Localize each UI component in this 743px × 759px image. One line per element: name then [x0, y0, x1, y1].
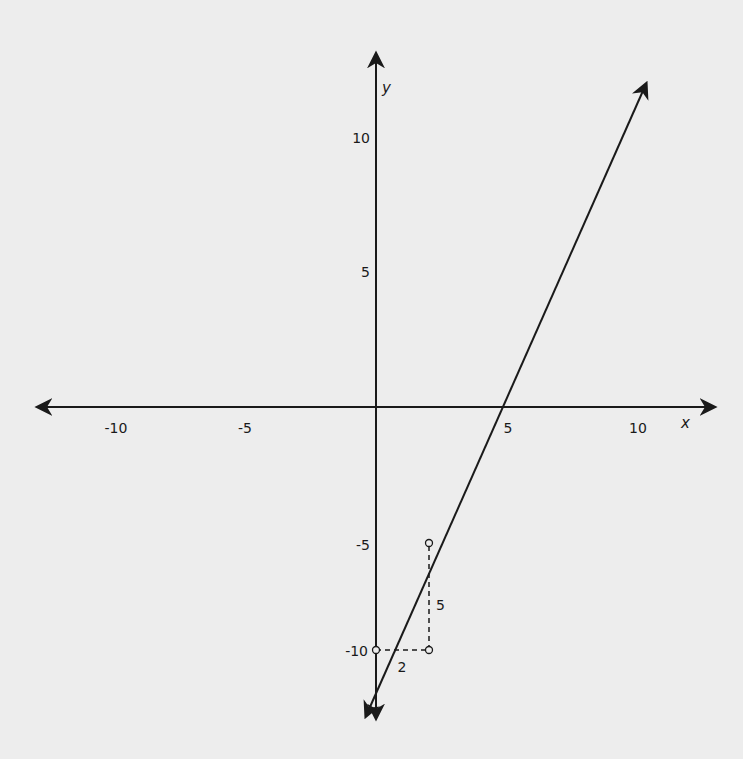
- x-tick-label: 5: [504, 420, 513, 436]
- plotted-line: [366, 84, 646, 716]
- rise-label: 5: [436, 597, 445, 613]
- point-2-neg10: [426, 647, 433, 654]
- y-tick-label: -10: [345, 643, 368, 659]
- chart-canvas: -10 -5 5 10 x 10 5 -5 -10 y 2 5: [0, 0, 743, 759]
- x-tick-label: 10: [629, 420, 647, 436]
- point-2-neg5: [426, 540, 433, 547]
- run-label: 2: [398, 659, 407, 675]
- x-tick-label: -10: [105, 420, 128, 436]
- y-axis-label: y: [381, 79, 392, 97]
- coordinate-plane-chart: -10 -5 5 10 x 10 5 -5 -10 y 2 5: [0, 0, 743, 759]
- point-0-neg10: [373, 647, 380, 654]
- y-tick-label: -5: [356, 537, 370, 553]
- y-tick-label: 10: [352, 130, 370, 146]
- x-tick-label: -5: [238, 420, 252, 436]
- x-axis-label: x: [680, 414, 690, 432]
- y-tick-label: 5: [361, 264, 370, 280]
